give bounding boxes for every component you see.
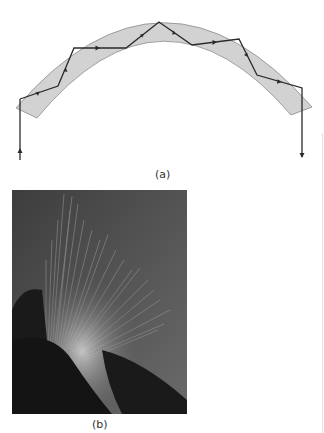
arrow-icon [300, 153, 305, 158]
arrow-icon [18, 148, 23, 153]
page-edge-line [322, 133, 323, 433]
optical-fiber-diagram [0, 0, 324, 180]
optical-fiber-photo [12, 190, 187, 414]
fiber-arc [16, 23, 312, 118]
figure-b-label: (b) [92, 418, 108, 431]
direction-arrows [18, 31, 305, 159]
figure-a-label: (a) [155, 168, 170, 181]
